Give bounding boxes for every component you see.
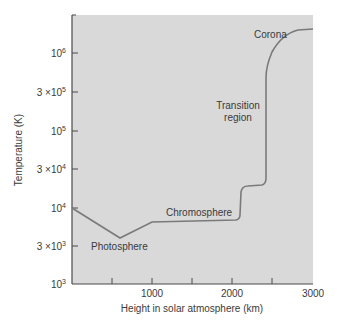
y-tick-1e6: 106 xyxy=(51,47,66,59)
annotation-photosphere: Photosphere xyxy=(91,241,148,252)
y-axis-title: Temperature (K) xyxy=(13,114,24,186)
x-axis-title: Height in solar atmosphere (km) xyxy=(121,303,263,314)
x-tick-1000: 1000 xyxy=(141,288,164,299)
temperature-chart: 106 3 ×105 105 3 ×104 104 3 ×103 103 100… xyxy=(0,0,337,323)
y-tick-3e5: 3 ×105 xyxy=(37,86,66,98)
annotation-corona: Corona xyxy=(254,29,287,40)
y-tick-3e3: 3 ×103 xyxy=(37,240,66,252)
y-tick-1e5: 105 xyxy=(51,125,66,137)
y-tick-1e3: 103 xyxy=(51,278,66,290)
annotation-chromosphere: Chromosphere xyxy=(166,207,233,218)
y-tick-1e4: 104 xyxy=(51,202,66,214)
x-tick-3000: 3000 xyxy=(302,288,325,299)
x-tick-2000: 2000 xyxy=(221,288,244,299)
y-tick-labels: 106 3 ×105 105 3 ×104 104 3 ×103 103 xyxy=(37,47,66,290)
annotation-transition: Transition xyxy=(216,100,260,111)
x-tick-labels: 1000 2000 3000 xyxy=(141,288,325,299)
y-tick-3e4: 3 ×104 xyxy=(37,163,66,175)
annotation-region: region xyxy=(224,112,252,123)
